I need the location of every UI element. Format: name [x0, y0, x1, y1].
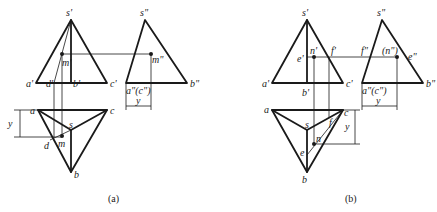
front-view-b: s' a' b' c' e' n' f' [262, 7, 353, 98]
label-y-top: y [7, 118, 13, 129]
label-e-prime: e' [297, 53, 304, 64]
label-n: n [316, 133, 321, 144]
label-b-prime: b' [73, 78, 81, 89]
label-s: s [305, 119, 309, 130]
label-y-side: y [375, 95, 381, 106]
label-a-prime: a' [262, 78, 270, 89]
label-s: s [69, 119, 73, 130]
side-view-b: s" f" (n") e" b" a"(c") y [361, 7, 436, 110]
label-d-prime: d' [46, 78, 54, 89]
label-m-dprime: m" [152, 54, 164, 65]
label-b-dprime: b" [190, 78, 200, 89]
label-b: b [74, 169, 79, 180]
label-s-prime: s' [302, 7, 309, 18]
label-a-c-dprime: a"(c") [362, 85, 387, 97]
label-c: c [344, 107, 349, 118]
aux-line-sd [54, 20, 71, 83]
front-view-a: s' a' d' b' c' m' [26, 7, 117, 89]
label-n-prime: n' [310, 45, 318, 56]
label-m: m [58, 138, 65, 149]
top-view-a: a c s b d m y [7, 105, 115, 180]
label-c: c [110, 105, 115, 116]
side-view-a: s" m" b" a"(c") y [126, 7, 200, 110]
label-d: d [44, 140, 50, 151]
label-c-prime: c' [346, 78, 353, 89]
caption-b: (b) [345, 193, 357, 205]
label-s-dprime: s" [377, 7, 386, 18]
label-s-dprime: s" [140, 7, 149, 18]
label-e: e [300, 147, 305, 158]
label-s-prime: s' [66, 7, 73, 18]
label-b-dprime: b" [426, 78, 436, 89]
label-a-prime: a' [26, 78, 34, 89]
panel-b: s' a' b' c' e' n' f' s" f" (n") e" b" a"… [262, 7, 436, 205]
panel-a: s' a' d' b' c' m' s" m" b" a"(c") y [7, 7, 200, 205]
top-view-b: a c s f n e b y [264, 104, 360, 185]
label-a: a [30, 105, 35, 116]
label-a: a [264, 104, 269, 115]
label-n-dprime: (n") [382, 45, 399, 57]
label-c-prime: c' [110, 78, 117, 89]
caption-a: (a) [108, 193, 119, 205]
label-b: b [302, 174, 307, 185]
aux-line-cne [307, 110, 343, 155]
label-b-prime: b' [302, 87, 310, 98]
label-f-prime: f' [331, 45, 337, 56]
label-y-top: y [344, 121, 350, 132]
label-y-side: y [135, 95, 141, 106]
label-e-dprime: e" [408, 51, 417, 62]
projection-drawing: s' a' d' b' c' m' s" m" b" a"(c") y [0, 0, 437, 212]
side-triangle [126, 20, 187, 83]
label-f-dprime: f" [361, 45, 369, 56]
label-f: f [329, 117, 333, 128]
label-m-prime: m' [62, 57, 72, 68]
